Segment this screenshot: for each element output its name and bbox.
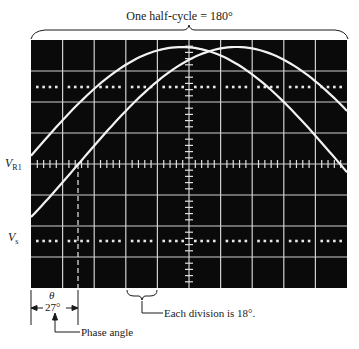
- half-cycle-title: One half-cycle = 180°: [0, 9, 359, 24]
- phase-value: 27°: [45, 301, 60, 313]
- half-cycle-brace: [31, 25, 348, 39]
- theta-symbol: θ: [49, 289, 54, 301]
- vs-label: Vs: [8, 230, 18, 246]
- vr1-label: VR1: [5, 156, 22, 172]
- vs-label-sub: s: [15, 237, 18, 246]
- vr1-label-sub: R1: [12, 163, 21, 172]
- division-brace: [127, 290, 163, 313]
- phase-angle-label: Phase angle: [81, 326, 133, 338]
- division-note: Each division is 18°.: [164, 307, 255, 319]
